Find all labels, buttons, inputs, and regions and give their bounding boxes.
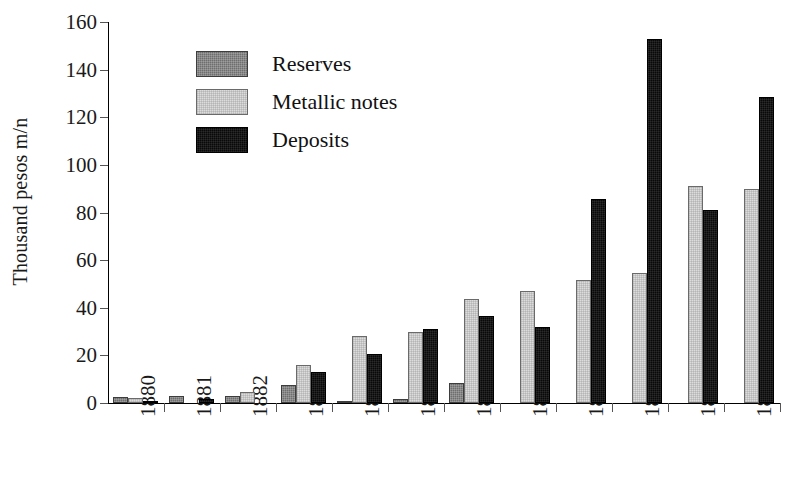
x-axis-tick — [724, 403, 725, 412]
x-axis-tick — [220, 403, 221, 412]
bar-deposits-1890 — [703, 210, 718, 403]
y-axis-tick-label: 40 — [76, 295, 97, 320]
bar-deposits-1891 — [759, 97, 774, 403]
bar-metallic-notes-1886 — [464, 299, 479, 403]
bar-reserves-1880 — [113, 397, 128, 403]
bar-deposits-1889 — [647, 39, 662, 403]
bar-metallic-notes-1891 — [744, 189, 759, 403]
y-axis-tick — [100, 355, 108, 356]
legend-swatch-light-gray — [196, 89, 248, 115]
legend-label: Metallic notes — [272, 89, 397, 115]
y-axis-tick — [100, 260, 108, 261]
legend-label: Deposits — [272, 127, 349, 153]
x-axis-tick — [164, 403, 165, 412]
y-axis-tick — [100, 213, 108, 214]
y-axis-tick — [100, 308, 108, 309]
x-axis-tick-label-text: 1880 — [136, 375, 161, 417]
bar-deposits-1885 — [423, 329, 438, 403]
y-axis-tick — [100, 165, 108, 166]
x-axis-tick — [780, 403, 781, 412]
chart-figure: Thousand pesos m/n 020406080100120140160… — [0, 0, 789, 479]
bar-reserves-1884 — [337, 401, 352, 403]
x-axis-tick — [276, 403, 277, 412]
bar-deposits-1880 — [143, 401, 158, 403]
bar-deposits-1887 — [535, 327, 550, 403]
bar-reserves-1881 — [169, 396, 184, 403]
bar-metallic-notes-1884 — [352, 336, 367, 403]
y-axis-tick-label: 80 — [76, 200, 97, 225]
legend-item-deposits: Deposits — [196, 121, 397, 159]
legend-swatch-black — [196, 127, 248, 153]
legend-item-reserves: Reserves — [196, 45, 397, 83]
x-axis-tick — [556, 403, 557, 412]
bar-metallic-notes-1880 — [128, 398, 143, 403]
y-axis-tick — [100, 117, 108, 118]
x-axis-tick — [612, 403, 613, 412]
x-axis-tick — [668, 403, 669, 412]
y-axis-tick-label: 160 — [66, 10, 98, 35]
bar-reserves-1882 — [225, 396, 240, 403]
x-axis-tick — [388, 403, 389, 412]
bar-deposits-1884 — [367, 354, 382, 403]
legend-item-metallic-notes: Metallic notes — [196, 83, 397, 121]
bar-deposits-1881 — [199, 399, 214, 403]
y-axis-tick-label: 0 — [87, 391, 98, 416]
bar-deposits-1886 — [479, 316, 494, 403]
bar-metallic-notes-1888 — [576, 280, 591, 403]
bar-metallic-notes-1885 — [408, 332, 423, 403]
bar-reserves-1883 — [281, 385, 296, 403]
y-axis-tick-label: 20 — [76, 343, 97, 368]
x-axis-tick — [500, 403, 501, 412]
bar-metallic-notes-1889 — [632, 273, 647, 403]
bar-metallic-notes-1887 — [520, 291, 535, 403]
y-axis-line — [108, 22, 109, 403]
bar-metallic-notes-1883 — [296, 365, 311, 403]
bar-reserves-1886 — [449, 383, 464, 403]
y-axis-title-text: Thousand pesos m/n — [9, 117, 32, 285]
legend-label: Reserves — [272, 51, 351, 77]
y-axis-tick-label: 140 — [66, 57, 98, 82]
y-axis-tick-label: 100 — [66, 152, 98, 177]
y-axis-tick — [100, 403, 108, 404]
y-axis-title: Thousand pesos m/n — [0, 0, 40, 403]
bar-deposits-1888 — [591, 199, 606, 403]
bar-metallic-notes-1890 — [688, 186, 703, 403]
bar-reserves-1885 — [393, 399, 408, 403]
bar-metallic-notes-1882 — [240, 392, 255, 403]
chart-legend: ReservesMetallic notesDeposits — [196, 45, 397, 159]
y-axis-tick-label: 60 — [76, 248, 97, 273]
x-axis-tick — [332, 403, 333, 412]
legend-swatch-dark-gray — [196, 51, 248, 77]
y-axis-tick — [100, 22, 108, 23]
x-axis-tick — [444, 403, 445, 412]
y-axis-tick-label: 120 — [66, 105, 98, 130]
y-axis-tick — [100, 70, 108, 71]
x-axis-tick-label-text: 1881 — [192, 375, 217, 417]
bar-deposits-1883 — [311, 372, 326, 403]
